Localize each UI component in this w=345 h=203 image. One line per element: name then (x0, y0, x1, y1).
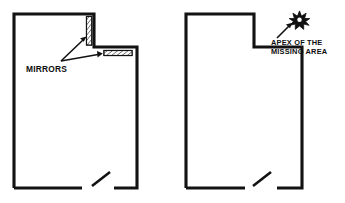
diagram-canvas: MIRRORS APEX OF THE MISSING AREA (0, 0, 345, 203)
left-door-swing-icon (92, 172, 110, 186)
horizontal-mirror (104, 51, 132, 56)
mirrors-leader-arrows (61, 37, 103, 61)
vertical-mirror (87, 17, 92, 46)
left-floor-plan: MIRRORS (14, 14, 137, 188)
left-plan-outline (14, 14, 137, 188)
apex-label-line-1: APEX OF THE (271, 38, 322, 47)
right-floor-plan: APEX OF THE MISSING AREA (186, 11, 328, 188)
apex-label-line-2: MISSING AREA (271, 47, 328, 56)
right-door-swing-icon (253, 172, 271, 186)
apex-leader-arrow (277, 23, 292, 38)
floor-plan-figure: MIRRORS APEX OF THE MISSING AREA (0, 0, 345, 203)
mirrors-label: MIRRORS (26, 64, 67, 74)
starburst-icon (289, 11, 310, 30)
